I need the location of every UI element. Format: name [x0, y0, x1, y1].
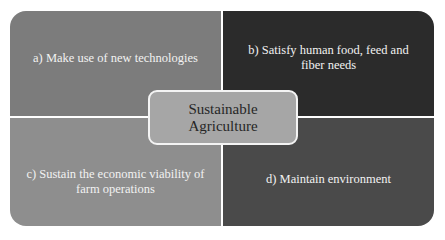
quadrant-d-label: d) Maintain environment	[266, 172, 391, 187]
quadrant-b-label: b) Satisfy human food, feed and fiber ne…	[237, 43, 420, 73]
center-box-sustainable-agriculture: Sustainable Agriculture	[148, 90, 298, 145]
center-label-line1: Sustainable	[188, 101, 257, 118]
quadrant-a-label: a) Make use of new technologies	[33, 51, 198, 66]
quadrant-c-label: c) Sustain the economic viability of far…	[24, 167, 207, 197]
center-label-line2: Agriculture	[188, 118, 257, 135]
